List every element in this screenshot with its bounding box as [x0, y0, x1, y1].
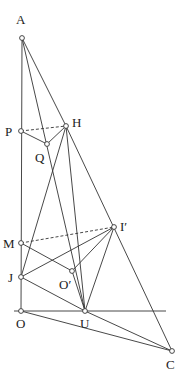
label-a: A — [16, 12, 26, 27]
segment-p-q — [21, 131, 47, 144]
point-a — [20, 36, 25, 41]
label-m: M — [3, 236, 15, 251]
segment-a-o — [21, 38, 22, 311]
point-p — [19, 129, 24, 134]
segment-i_prime-u — [85, 227, 114, 311]
segment-o-c — [21, 311, 172, 351]
point-q — [45, 142, 50, 147]
label-o-prime: O′ — [59, 277, 71, 292]
geometry-diagram: APHQMI′JO′OUC — [0, 0, 183, 372]
segment-a-h — [22, 38, 66, 126]
label-h: H — [72, 115, 81, 130]
label-p: P — [5, 124, 12, 139]
segments-group — [21, 38, 172, 351]
label-u: U — [80, 316, 90, 331]
point-j — [19, 275, 24, 280]
segment-m-o_prime — [21, 243, 72, 271]
point-i-prime — [112, 225, 117, 230]
point-o — [19, 309, 24, 314]
label-c: C — [166, 357, 175, 372]
point-u — [83, 309, 88, 314]
label-j: J — [8, 270, 13, 285]
label-o: O — [16, 316, 25, 331]
label-i-prime: I′ — [120, 219, 127, 234]
label-q: Q — [35, 150, 45, 165]
segment-a-u — [22, 38, 85, 311]
point-c — [170, 349, 175, 354]
point-m — [19, 241, 24, 246]
point-o-prime — [70, 269, 75, 274]
segment-h-j — [21, 126, 66, 277]
point-h — [64, 124, 69, 129]
